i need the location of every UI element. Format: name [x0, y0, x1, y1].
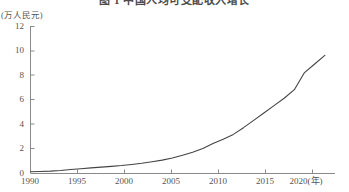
- y-tick-label-8: 8: [2, 71, 24, 80]
- x-tick-label-2010: 2010: [209, 177, 227, 186]
- x-tick-label-2000: 2000: [115, 177, 133, 186]
- x-tick-label-1995: 1995: [68, 177, 86, 186]
- y-tick-label-6: 6: [2, 95, 24, 104]
- figure-title: 图 1 中国人均可支配收入增长: [0, 0, 349, 7]
- y-axis-unit-label: (万人民元): [1, 8, 43, 20]
- x-tick-label-2005: 2005: [162, 177, 180, 186]
- x-tick-marks: [78, 170, 313, 174]
- chart-svg: [30, 26, 335, 176]
- y-tick-label-10: 10: [2, 46, 24, 55]
- x-tick-label-2020-text: 2020: [290, 176, 308, 186]
- data-line-series-1: [30, 55, 325, 171]
- figure-container: 图 1 中国人均可支配收入增长 (万人民元) 12 10 8 6 4 2 0 1…: [0, 0, 349, 192]
- x-tick-label-2020: 2020(年): [290, 177, 323, 186]
- x-axis-unit-label: (年): [308, 176, 323, 186]
- x-tick-label-2015: 2015: [256, 177, 274, 186]
- y-tick-label-4: 4: [2, 120, 24, 129]
- y-tick-marks: [31, 27, 35, 149]
- x-tick-label-1990: 1990: [21, 177, 39, 186]
- y-tick-label-12: 12: [2, 22, 24, 31]
- plot-area: [30, 26, 335, 173]
- y-tick-label-2: 2: [2, 144, 24, 153]
